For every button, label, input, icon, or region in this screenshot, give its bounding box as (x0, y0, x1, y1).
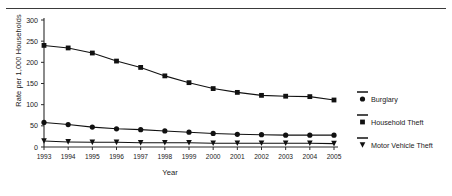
data-point-circle (259, 132, 264, 137)
chart-legend: BurglaryHousehold TheftMotor Vehicle The… (357, 92, 433, 150)
x-tick-label: 1996 (109, 153, 124, 160)
data-point-circle (235, 132, 240, 137)
x-tick-label: 2000 (206, 153, 221, 160)
y-tick-label: 200 (26, 59, 38, 67)
x-tick-label: 1997 (133, 153, 148, 160)
data-point-circle (283, 133, 288, 138)
y-tick-label: 100 (26, 101, 38, 109)
data-point-circle (360, 96, 365, 101)
data-point-circle (66, 122, 71, 127)
x-tick-label: 2001 (230, 153, 245, 160)
legend-item-household-theft[interactable]: Household Theft (357, 115, 424, 127)
data-point-square (332, 98, 337, 103)
series-motor-vehicle-theft (41, 138, 337, 146)
data-point-square (90, 51, 95, 56)
data-series-layer (41, 43, 337, 146)
data-point-square (42, 43, 47, 48)
x-tick-label: 1993 (37, 153, 52, 160)
series-household-theft (41, 120, 336, 138)
data-point-circle (114, 126, 119, 131)
data-point-square (283, 94, 288, 99)
y-tick-label: 50 (30, 122, 38, 130)
legend-label: Household Theft (371, 118, 424, 127)
legend-item-motor-vehicle-theft[interactable]: Motor Vehicle Theft (357, 138, 433, 150)
x-tick-label: 1998 (157, 153, 172, 160)
x-tick-label: 2003 (278, 153, 293, 160)
y-axis-ticks: 050100150200250300 (26, 17, 44, 152)
y-tick-label: 250 (26, 38, 38, 46)
data-point-square (259, 93, 264, 98)
legend-item-burglary[interactable]: Burglary (357, 92, 398, 104)
x-tick-label: 1995 (85, 153, 100, 160)
data-point-square (187, 80, 192, 85)
data-point-circle (307, 133, 312, 138)
chart-figure: Rate per 1,000 Households Year 050100150… (0, 0, 452, 196)
x-tick-label: 2002 (254, 153, 269, 160)
data-point-circle (90, 125, 95, 130)
y-tick-label: 0 (34, 144, 38, 152)
y-tick-label: 150 (26, 80, 38, 88)
x-tick-label: 1999 (182, 153, 197, 160)
data-point-circle (186, 130, 191, 135)
line-chart-plot: 050100150200250300 199319941995199619971… (0, 0, 452, 196)
series-line (44, 45, 334, 100)
data-point-square (211, 86, 216, 91)
legend-label: Motor Vehicle Theft (371, 141, 433, 150)
data-point-square (360, 120, 365, 125)
data-point-square (235, 90, 240, 95)
data-point-circle (211, 131, 216, 136)
data-point-square (138, 65, 143, 70)
x-tick-label: 1994 (61, 153, 76, 160)
x-tick-label: 2004 (302, 153, 317, 160)
x-tick-label: 2005 (327, 153, 342, 160)
y-tick-label: 300 (26, 17, 38, 25)
data-point-circle (331, 133, 336, 138)
data-point-circle (41, 120, 46, 125)
data-point-square (162, 73, 167, 78)
x-axis-ticks: 1993199419951996199719981999200020012002… (37, 147, 342, 160)
series-burglary (42, 43, 337, 102)
data-point-square (114, 59, 119, 64)
legend-label: Burglary (371, 95, 398, 104)
data-point-triangle (360, 142, 366, 148)
data-point-circle (162, 128, 167, 133)
data-point-square (307, 94, 312, 99)
data-point-square (66, 46, 71, 51)
data-point-circle (138, 127, 143, 132)
